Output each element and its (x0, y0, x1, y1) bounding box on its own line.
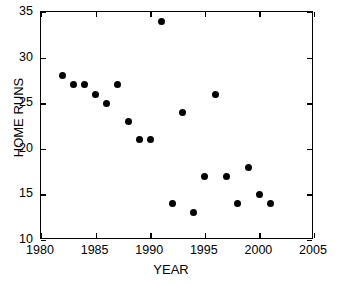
x-axis-tick (259, 233, 260, 238)
x-axis-tick (150, 233, 151, 238)
x-axis-tick-label: 2000 (244, 243, 272, 257)
y-axis-tick-label: 20 (0, 141, 33, 155)
data-point (245, 164, 252, 171)
y-axis-tick-right (307, 149, 312, 150)
y-axis-tick-right (307, 12, 312, 13)
data-point (256, 191, 263, 198)
data-point (158, 18, 165, 25)
y-axis-tick (41, 12, 46, 13)
y-axis-tick-label: 25 (0, 95, 33, 109)
y-axis-tick (41, 149, 46, 150)
y-axis-tick (41, 58, 46, 59)
data-point (70, 81, 77, 88)
data-point (201, 173, 208, 180)
data-point (212, 91, 219, 98)
y-axis-tick-label: 35 (0, 4, 33, 18)
data-point (179, 109, 186, 116)
x-axis-tick (205, 233, 206, 238)
data-point (92, 91, 99, 98)
x-axis-tick (96, 233, 97, 238)
y-axis-tick (41, 103, 46, 104)
x-axis-tick (314, 233, 315, 238)
data-point (114, 81, 121, 88)
plot-area (40, 11, 313, 239)
data-point (59, 72, 66, 79)
x-axis-tick-label: 2005 (299, 243, 327, 257)
data-point (267, 200, 274, 207)
y-axis-tick-right (307, 194, 312, 195)
x-axis-title: YEAR (0, 262, 342, 277)
y-axis-tick-label: 15 (0, 186, 33, 200)
data-point (147, 136, 154, 143)
y-axis-tick-label: 10 (0, 232, 33, 246)
y-axis-tick-right (307, 103, 312, 104)
x-axis-tick-label: 1985 (81, 243, 109, 257)
y-axis-title: HOME RUNS (11, 58, 26, 178)
data-point (169, 200, 176, 207)
data-point (81, 81, 88, 88)
x-axis-tick-label: 1990 (135, 243, 163, 257)
data-point (234, 200, 241, 207)
data-point (103, 100, 110, 107)
x-axis-tick (41, 233, 42, 238)
x-axis-tick-top (205, 12, 206, 17)
scatter-plot-figure: YEAR HOME RUNS 1980198519901995200020051… (0, 0, 342, 284)
data-point (125, 118, 132, 125)
data-point (190, 209, 197, 216)
y-axis-tick (41, 240, 46, 241)
x-axis-tick-top (259, 12, 260, 17)
x-axis-tick-label: 1995 (190, 243, 218, 257)
y-axis-tick-right (307, 240, 312, 241)
x-axis-tick-top (150, 12, 151, 17)
y-axis-tick (41, 194, 46, 195)
data-point (223, 173, 230, 180)
y-axis-tick-label: 30 (0, 50, 33, 64)
x-axis-tick-top (96, 12, 97, 17)
y-axis-tick-right (307, 58, 312, 59)
data-point (136, 136, 143, 143)
x-axis-tick-top (314, 12, 315, 17)
